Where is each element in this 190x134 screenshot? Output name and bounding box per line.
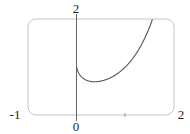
x-tick-label-right: 2 <box>178 107 185 122</box>
chart: 2 -1 0 2 <box>0 0 190 134</box>
x-tick-label-origin: 0 <box>73 119 80 134</box>
plot-frame <box>28 19 174 115</box>
y-tick-label-top: 2 <box>73 1 80 16</box>
x-tick-label-left: -1 <box>10 107 21 122</box>
curve-x-pow-x <box>77 19 153 81</box>
